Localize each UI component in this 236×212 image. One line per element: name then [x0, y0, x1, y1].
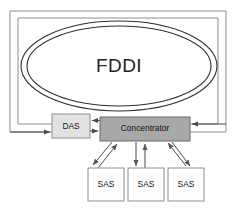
sas-2-label: SAS [138, 179, 155, 189]
sas-3-label: SAS [178, 179, 195, 189]
fddi-network-diagram: FDDI DAS Concentrator [0, 0, 236, 212]
das-label: DAS [62, 121, 80, 131]
concentrator-label: Concentrator [121, 123, 170, 133]
concentrator-sas3-links [168, 142, 190, 166]
concentrator-sas2-links [136, 142, 145, 169]
concentrator-to-sas3-arrow [172, 142, 190, 166]
concentrator-sas1-links [93, 142, 117, 168]
diagram-canvas: FDDI DAS Concentrator [0, 0, 236, 212]
node-concentrator[interactable]: Concentrator [100, 117, 190, 141]
das-concentrator-links [90, 121, 100, 132]
node-sas-2[interactable]: SAS [128, 168, 164, 201]
node-sas-3[interactable]: SAS [168, 168, 204, 201]
node-sas-1[interactable]: SAS [88, 168, 124, 201]
fddi-ring-label: FDDI [96, 55, 142, 76]
sas3-to-concentrator-arrow [168, 143, 186, 166]
node-das[interactable]: DAS [52, 114, 90, 138]
sas-1-label: SAS [98, 179, 115, 189]
